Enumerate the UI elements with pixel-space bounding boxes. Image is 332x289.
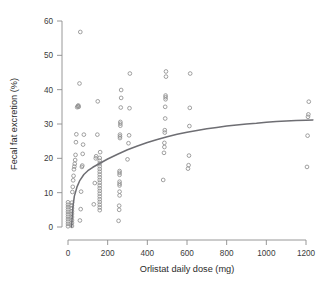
scatter-point <box>188 106 192 110</box>
y-axis-ticks: 0102030405060 <box>44 17 62 232</box>
scatter-point <box>163 128 167 132</box>
scatter-point <box>72 174 76 178</box>
scatter-point <box>188 72 192 76</box>
scatter-point <box>119 88 123 92</box>
x-tick-label: 800 <box>220 249 234 258</box>
scatter-point <box>163 145 167 149</box>
scatter-point <box>71 178 75 182</box>
scatter-plot-svg: 0102030405060 020040060080010001200 Orli… <box>0 0 332 289</box>
scatter-point <box>93 181 97 185</box>
scatter-point <box>162 151 166 155</box>
scatter-point <box>127 141 131 145</box>
scatter-point <box>78 82 82 86</box>
scatter-point <box>119 96 123 100</box>
scatter-point <box>78 219 82 223</box>
scatter-point <box>163 141 167 145</box>
scatter-point <box>79 190 83 194</box>
scatter-point <box>306 134 310 138</box>
scatter-point <box>163 105 167 109</box>
x-tick-label: 1200 <box>297 249 316 258</box>
y-tick-label: 60 <box>44 17 54 26</box>
scatter-point <box>119 106 123 110</box>
scatter-point <box>92 202 96 206</box>
scatter-point <box>164 70 168 74</box>
scatter-point <box>117 208 121 212</box>
scatter-point <box>128 106 132 110</box>
scatter-point <box>307 113 311 117</box>
scatter-point <box>188 124 192 128</box>
scatter-point <box>117 219 121 223</box>
scatter-point <box>187 154 191 158</box>
y-axis-title: Fecal fat excretion (%) <box>9 78 19 170</box>
scatter-point <box>128 72 132 76</box>
x-axis-ticks: 020040060080010001200 <box>66 240 316 258</box>
x-tick-label: 400 <box>140 249 154 258</box>
y-tick-label: 20 <box>44 154 54 163</box>
scatter-point <box>71 190 75 194</box>
y-tick-label: 0 <box>48 223 53 232</box>
chart-figure: 0102030405060 020040060080010001200 Orli… <box>0 0 332 289</box>
y-axis: 0102030405060 <box>44 17 62 232</box>
scatter-point <box>66 200 70 204</box>
scatter-point <box>74 140 78 144</box>
scatter-point <box>127 133 131 137</box>
x-tick-label: 600 <box>180 249 194 258</box>
x-axis-title: Orlistat daily dose (mg) <box>140 264 234 274</box>
scatter-point <box>163 117 167 121</box>
scatter-point <box>82 133 86 137</box>
y-tick-label: 40 <box>44 86 54 95</box>
x-tick-label: 200 <box>101 249 115 258</box>
x-tick-label: 1000 <box>257 249 276 258</box>
y-tick-label: 10 <box>44 189 54 198</box>
scatter-point <box>305 165 309 169</box>
scatter-point <box>126 158 130 162</box>
y-tick-label: 50 <box>44 51 54 60</box>
scatter-point <box>117 204 121 208</box>
scatter-point <box>96 133 100 137</box>
scatter-point <box>79 207 83 211</box>
scatter-point <box>74 153 78 157</box>
x-axis: 020040060080010001200 <box>66 240 316 258</box>
scatter-point <box>71 185 75 189</box>
scatter-point <box>74 132 78 136</box>
scatter-point <box>81 152 85 156</box>
scatter-point <box>118 190 122 194</box>
scatter-point <box>307 100 311 104</box>
scatter-point <box>81 143 85 147</box>
scatter-point <box>98 150 102 154</box>
scatter-point <box>78 30 82 34</box>
scatter-point <box>161 178 165 182</box>
y-tick-label: 30 <box>44 120 54 129</box>
scatter-point <box>96 99 100 103</box>
data-points <box>66 30 310 228</box>
scatter-point <box>73 158 77 162</box>
scatter-point <box>118 194 122 198</box>
fitted-curve <box>72 120 313 227</box>
x-tick-label: 0 <box>66 249 71 258</box>
scatter-point <box>164 75 168 79</box>
